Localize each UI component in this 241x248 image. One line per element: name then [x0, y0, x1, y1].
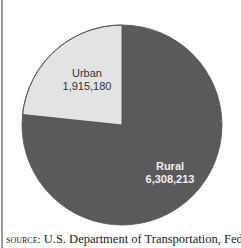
source-text: U.S. Department of Transportation, Feder… [41, 232, 241, 246]
source-prefix: source: [6, 233, 41, 245]
urban-name: Urban [52, 67, 122, 80]
urban-label: Urban 1,915,180 [52, 67, 122, 93]
rural-value: 6,308,213 [130, 173, 210, 186]
urban-value: 1,915,180 [52, 80, 122, 93]
rural-name: Rural [130, 160, 210, 173]
rural-label: Rural 6,308,213 [130, 160, 210, 186]
pie-chart [0, 0, 241, 248]
source-note: source: U.S. Department of Transportatio… [6, 232, 241, 247]
